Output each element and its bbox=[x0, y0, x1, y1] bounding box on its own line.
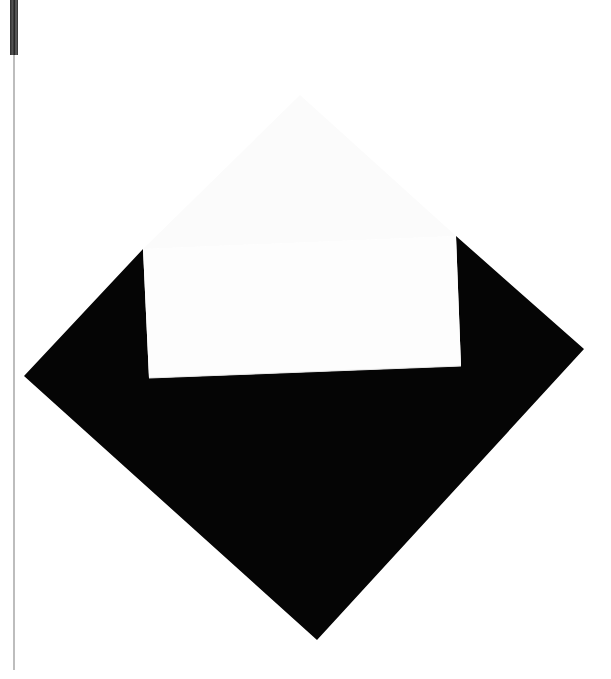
white-card bbox=[143, 236, 461, 378]
ghost-diamond-top bbox=[143, 95, 456, 249]
photo-scene bbox=[0, 0, 611, 679]
shape-layer bbox=[0, 0, 611, 679]
